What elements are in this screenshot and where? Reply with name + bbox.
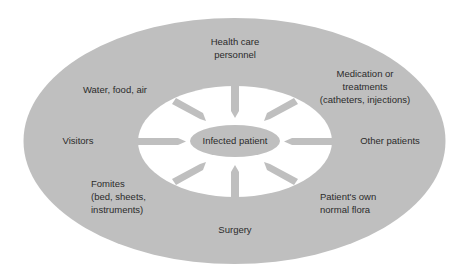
source-health-care-personnel: Health care personnel [195, 35, 275, 61]
label-line: Other patients [350, 134, 430, 147]
label-line: (bed, sheets, [91, 190, 171, 203]
label-line: Health care [195, 35, 275, 48]
label-line: Fomites [91, 177, 171, 190]
source-patients-own-flora: Patient's own normal flora [320, 190, 400, 216]
arrow-right-icon [284, 138, 332, 145]
center-label-text: Infected patient [203, 135, 268, 146]
label-line: Visitors [58, 134, 98, 147]
center-label: Infected patient [190, 134, 280, 147]
source-surgery: Surgery [205, 223, 265, 236]
source-other-patients: Other patients [350, 134, 430, 147]
source-water-food-air: Water, food, air [80, 83, 150, 96]
source-fomites: Fomites (bed, sheets, instruments) [91, 177, 171, 216]
label-line: instruments) [91, 203, 171, 216]
label-line: Patient's own [320, 190, 400, 203]
label-line: normal flora [320, 203, 400, 216]
label-line: treatments [310, 80, 420, 93]
source-visitors: Visitors [58, 134, 98, 147]
label-line: Medication or [310, 67, 420, 80]
arrow-left-icon [138, 138, 186, 145]
label-line: (catheters, injections) [310, 93, 420, 106]
source-medication-treatments: Medication or treatments (catheters, inj… [310, 67, 420, 106]
label-line: Water, food, air [80, 83, 150, 96]
label-line: personnel [195, 48, 275, 61]
label-line: Surgery [205, 223, 265, 236]
